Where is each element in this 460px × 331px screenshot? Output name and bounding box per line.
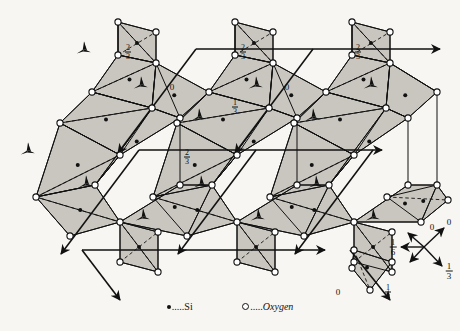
- oxygen-circle-icon: [242, 303, 249, 310]
- height-label: 2 3: [355, 44, 361, 61]
- si-dot-icon: [167, 305, 171, 309]
- legend: .....Si .....Oxygen: [0, 300, 460, 312]
- height-denominator: 3: [125, 53, 131, 61]
- height-denominator: 3: [184, 158, 190, 166]
- height-label: 2 3: [125, 44, 131, 61]
- text-overlay: 2 32 32 3001 32 3001 301 61 3: [0, 0, 460, 331]
- height-denominator: 3: [240, 53, 246, 61]
- key-denominator: 3: [446, 272, 453, 281]
- oxygen-label: Oxygen: [263, 301, 294, 312]
- si-leader: .....: [172, 301, 185, 312]
- height-label: 0: [170, 83, 175, 92]
- oxygen-leader: .....: [250, 301, 263, 312]
- height-label: 0: [430, 223, 435, 232]
- si-label: Si: [184, 301, 193, 312]
- height-denominator: 3: [355, 53, 361, 61]
- key-denominator: 6: [390, 248, 397, 257]
- crystal-structure-figure: 2 32 32 3001 32 3001 301 61 3 .....Si ..…: [0, 0, 460, 331]
- height-label: 2 3: [184, 149, 190, 166]
- height-label: 1 3: [232, 99, 238, 116]
- axis-key-label-zero: 0: [447, 218, 452, 227]
- height-denominator: 3: [232, 108, 238, 116]
- height-label: 0: [336, 288, 341, 297]
- height-label: 1 3: [385, 284, 391, 301]
- axis-key-label-third: 1 3: [446, 262, 453, 281]
- axis-key-label-sixth: 1 6: [390, 238, 397, 257]
- height-label: 2 3: [240, 44, 246, 61]
- height-label: 0: [285, 83, 290, 92]
